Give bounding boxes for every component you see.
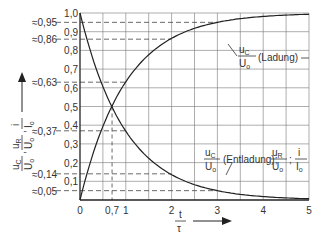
svg-text:0,1: 0,1: [64, 176, 78, 187]
svg-text:≈0,86: ≈0,86: [32, 34, 57, 45]
svg-text:0,8: 0,8: [64, 45, 78, 56]
entladung-label: (Entladung);: [223, 154, 277, 165]
svg-text:Io: Io: [23, 121, 35, 128]
svg-text:0,5: 0,5: [64, 102, 78, 113]
svg-text:0,7: 0,7: [64, 64, 78, 75]
svg-text:0,3: 0,3: [64, 139, 78, 150]
svg-text:≈0,63: ≈0,63: [32, 77, 57, 88]
svg-text:t: t: [179, 209, 182, 220]
i-num: i: [298, 147, 300, 158]
svg-text:≈0,14: ≈0,14: [32, 169, 57, 180]
svg-text:0,6: 0,6: [64, 83, 78, 94]
svg-text:2: 2: [169, 205, 175, 216]
svg-text:1: 1: [123, 205, 129, 216]
svg-text:,: ,: [16, 151, 27, 154]
ladung-denominator: Uo: [239, 58, 250, 70]
arrow-up-icon: [18, 72, 26, 82]
entladung-num: uC: [205, 147, 216, 159]
reference-labels: ≈0,95≈0,86≈0,63≈0,37≈0,14≈0,05: [32, 17, 57, 196]
svg-text:0: 0: [77, 205, 83, 216]
svg-text:≈0,37: ≈0,37: [32, 126, 57, 137]
svg-text:i: i: [10, 124, 21, 126]
svg-text:;: ;: [289, 154, 292, 165]
svg-text:4: 4: [260, 205, 266, 216]
svg-text:0,2: 0,2: [64, 158, 78, 169]
svg-text:uC: uC: [10, 159, 22, 170]
y-tick-labels: 0,10,20,30,40,50,60,70,80,91,0: [64, 8, 78, 187]
svg-text:τ: τ: [177, 223, 181, 234]
x-tick-labels: 00,712345: [77, 205, 312, 216]
arrow-right-icon: [222, 217, 232, 225]
svg-text:Uo: Uo: [23, 138, 35, 149]
svg-text:Uo: Uo: [23, 159, 35, 170]
svg-text:≈0,95: ≈0,95: [32, 17, 57, 28]
svg-text:,: ,: [16, 130, 27, 133]
ladung-label: (Ladung): [258, 52, 298, 63]
x-axis-label: t τ: [175, 209, 232, 234]
rc-charge-discharge-chart: 0,10,20,30,40,50,60,70,80,91,0 00,712345…: [0, 0, 315, 237]
svg-text:0,9: 0,9: [64, 27, 78, 38]
svg-text:uR: uR: [10, 138, 22, 149]
ladung-numerator: uC: [239, 44, 250, 56]
svg-text:3: 3: [215, 205, 221, 216]
svg-text:≈0,05: ≈0,05: [32, 186, 57, 197]
svg-text:5: 5: [306, 205, 312, 216]
legend-entladung: uC Uo (Entladung); uR Uo ; i Io: [204, 147, 307, 175]
svg-text:1,0: 1,0: [64, 8, 78, 19]
ur-num: uR: [272, 147, 283, 159]
svg-text:0,7: 0,7: [105, 205, 119, 216]
svg-text:0,4: 0,4: [64, 120, 78, 131]
